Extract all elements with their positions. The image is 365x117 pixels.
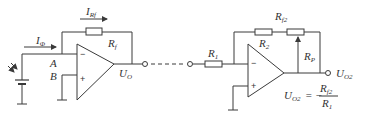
op-amp-1-plus: + xyxy=(80,74,85,84)
node-a-label: A xyxy=(49,57,57,69)
resistor-r2 xyxy=(255,29,272,35)
formula-denominator: R1 xyxy=(321,97,332,111)
circuit-diagram: IΦ IRf Rf − + A B UO R1 R2 Rf2 RP xyxy=(0,0,365,117)
noninverting-input-wire xyxy=(233,86,248,110)
op-amp-1-minus: − xyxy=(80,49,85,59)
rp-label: RP xyxy=(303,50,316,64)
r2-label: R2 xyxy=(258,37,270,51)
light-arrow-icon xyxy=(11,63,17,69)
feedback-current-label: IRf xyxy=(85,5,97,19)
formula-numerator: Rf2 xyxy=(319,82,333,96)
op-amp-2-minus: − xyxy=(251,58,256,68)
output-terminal xyxy=(326,71,331,76)
input-terminal xyxy=(188,62,193,67)
feedback-resistor-label: Rf xyxy=(107,37,118,51)
formula-lhs: UO2 xyxy=(284,89,301,103)
rf2-label: Rf2 xyxy=(274,10,288,24)
stage2-inverting-amplifier: R1 R2 Rf2 RP − + UO2 UO2 = − Rf2 R1 xyxy=(188,10,354,111)
output-label: UO xyxy=(119,67,132,81)
photodiode-icon xyxy=(8,54,29,104)
node-b-label: B xyxy=(50,70,57,82)
noninverting-input-wire xyxy=(62,75,77,100)
light-arrow-icon xyxy=(8,66,14,72)
op-amp-2-plus: + xyxy=(251,81,256,91)
r1-label: R1 xyxy=(207,47,218,61)
output-terminal xyxy=(143,62,148,67)
input-current-label: IΦ xyxy=(35,34,46,48)
output-label: UO2 xyxy=(336,67,353,81)
stage1-transimpedance-amplifier: IΦ IRf Rf − + A B UO xyxy=(8,5,148,104)
potentiometer-rp xyxy=(287,29,304,35)
resistor-r1 xyxy=(205,61,222,67)
feedback-resistor-rf xyxy=(86,28,102,35)
gain-formula: UO2 = − Rf2 R1 xyxy=(284,82,338,111)
